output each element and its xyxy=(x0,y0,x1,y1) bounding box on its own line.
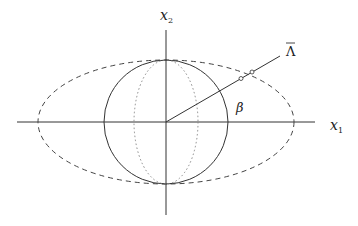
beta-label: β xyxy=(235,100,244,115)
lambda-label: Λ xyxy=(285,44,296,59)
diagram-canvas: x2 x1 Λ β xyxy=(0,0,358,226)
ray-marker-1 xyxy=(239,77,243,81)
lambda-ray xyxy=(166,56,280,122)
x1-label: x1 xyxy=(330,117,343,135)
x2-label: x2 xyxy=(160,7,173,25)
ray-marker-2 xyxy=(250,70,254,74)
